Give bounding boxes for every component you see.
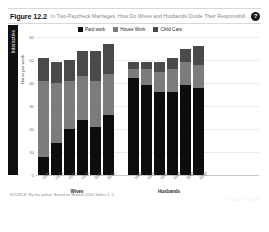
interactive-tab[interactable]: Interactive: [8, 25, 18, 175]
bar-segment-paid-work: [90, 127, 101, 175]
bar[interactable]: [103, 36, 114, 175]
bar[interactable]: [64, 36, 75, 175]
bar[interactable]: [51, 36, 62, 175]
group-label-husbands: Husbands: [158, 189, 180, 194]
bar-segment-child-care: [51, 62, 62, 83]
legend-label: House Work: [120, 27, 145, 32]
figure-card: Figure 12.2 In Two-Paycheck Marriages, H…: [0, 0, 269, 232]
y-axis-tick: 40: [18, 81, 34, 86]
bar-segment-house-work: [51, 83, 62, 143]
bar-segment-paid-work: [180, 85, 191, 175]
legend-label: Paid work: [85, 27, 105, 32]
bar-group-husbands: [128, 36, 204, 175]
bar-segment-child-care: [64, 60, 75, 81]
legend-swatch-icon: [153, 27, 158, 32]
bar-segment-child-care: [103, 44, 114, 74]
bar-segment-child-care: [193, 46, 204, 64]
bar[interactable]: [77, 36, 88, 175]
y-axis-tick: 10: [18, 150, 34, 155]
bar-groups: [38, 36, 259, 175]
bar[interactable]: [38, 36, 49, 175]
bar[interactable]: [180, 36, 191, 175]
bar-segment-paid-work: [167, 92, 178, 175]
y-axis-tick: 20: [18, 127, 34, 132]
bar-segment-child-care: [154, 62, 165, 71]
bar-segment-paid-work: [128, 78, 139, 175]
y-axis-tick: 30: [18, 104, 34, 109]
bar-segment-child-care: [38, 58, 49, 81]
bar-segment-house-work: [128, 69, 139, 78]
bar[interactable]: [167, 36, 178, 175]
bar-segment-child-care: [167, 58, 178, 70]
figure-number: Figure 12.2: [10, 12, 47, 21]
bar-segment-house-work: [193, 65, 204, 88]
bar-segment-house-work: [103, 74, 114, 115]
bar-segment-paid-work: [193, 88, 204, 175]
bar-segment-child-care: [180, 49, 191, 63]
legend-item-child-care[interactable]: Child Care: [153, 27, 182, 32]
legend-swatch-icon: [78, 27, 83, 32]
bar-segment-paid-work: [77, 120, 88, 175]
bar-segment-paid-work: [154, 92, 165, 175]
chart-legend: Paid workHouse WorkChild Care: [78, 27, 182, 32]
bar-segment-paid-work: [103, 115, 114, 175]
x-axis-labels: 196519751985199520002010Wives19651975198…: [18, 177, 261, 193]
question-mark-icon[interactable]: ?: [251, 12, 260, 21]
bar-segment-house-work: [38, 81, 49, 157]
figure-header: Figure 12.2 In Two-Paycheck Marriages, H…: [8, 8, 261, 24]
source-note: SOURCE: By the author. Based on Bianchi …: [10, 192, 115, 197]
bar-group-wives: [38, 36, 114, 175]
bar-segment-child-care: [90, 51, 101, 81]
y-axis-tick: 50: [18, 58, 34, 63]
bar-segment-house-work: [77, 76, 88, 120]
legend-item-paid-work[interactable]: Paid work: [78, 27, 105, 32]
bar-segment-paid-work: [64, 129, 75, 175]
bar-segment-house-work: [167, 69, 178, 92]
y-axis-tick: 60: [18, 35, 34, 40]
bar[interactable]: [90, 36, 101, 175]
interactive-tab-label: Interactive: [11, 30, 16, 53]
bar-segment-house-work: [154, 72, 165, 93]
bar-segment-child-care: [128, 62, 139, 69]
bar-segment-paid-work: [141, 85, 152, 175]
bar-segment-child-care: [77, 51, 88, 76]
bar-segment-house-work: [64, 81, 75, 129]
bar-segment-house-work: [180, 62, 191, 85]
legend-item-house-work[interactable]: House Work: [113, 27, 145, 32]
legend-label: Child Care: [160, 27, 182, 32]
bar[interactable]: [193, 36, 204, 175]
legend-swatch-icon: [113, 27, 118, 32]
plot-area: Hours per week 0102030405060: [18, 36, 261, 176]
bar-segment-house-work: [141, 69, 152, 85]
bar-segment-house-work: [90, 81, 101, 127]
bar[interactable]: [154, 36, 165, 175]
figure-title: In Two-Paycheck Marriages, How Do Wives …: [51, 13, 251, 19]
watermark: Visual Figure: [226, 196, 259, 202]
group-spacer: [114, 36, 128, 175]
bar[interactable]: [128, 36, 139, 175]
bar[interactable]: [141, 36, 152, 175]
bar-segment-child-care: [141, 62, 152, 69]
